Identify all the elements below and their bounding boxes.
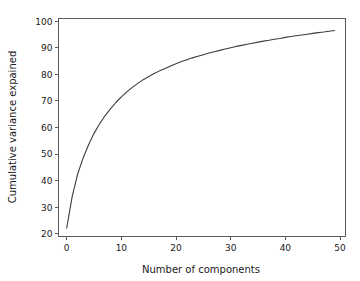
x-tick-label: 0	[64, 243, 70, 253]
x-tick-label: 10	[116, 243, 128, 253]
y-tick-label: 100	[35, 17, 52, 27]
y-tick-label: 90	[41, 43, 53, 53]
x-axis-label: Number of components	[142, 264, 260, 275]
line-chart-canvas: 01020304050 2030405060708090100 Number o…	[0, 0, 360, 281]
y-tick-label: 80	[41, 70, 53, 80]
figure-background	[0, 0, 360, 281]
y-tick-label: 30	[41, 203, 53, 213]
y-tick-label: 40	[41, 176, 53, 186]
y-tick-label: 70	[41, 96, 53, 106]
y-tick-label: 60	[41, 123, 53, 133]
chart-figure: 01020304050 2030405060708090100 Number o…	[0, 0, 360, 281]
x-tick-label: 50	[334, 243, 346, 253]
x-tick-label: 40	[280, 243, 292, 253]
y-axis-label: Cumulative variance expained	[7, 51, 18, 203]
y-tick-label: 20	[41, 229, 53, 239]
y-tick-label: 50	[41, 149, 53, 159]
x-tick-label: 30	[225, 243, 237, 253]
x-tick-label: 20	[170, 243, 182, 253]
